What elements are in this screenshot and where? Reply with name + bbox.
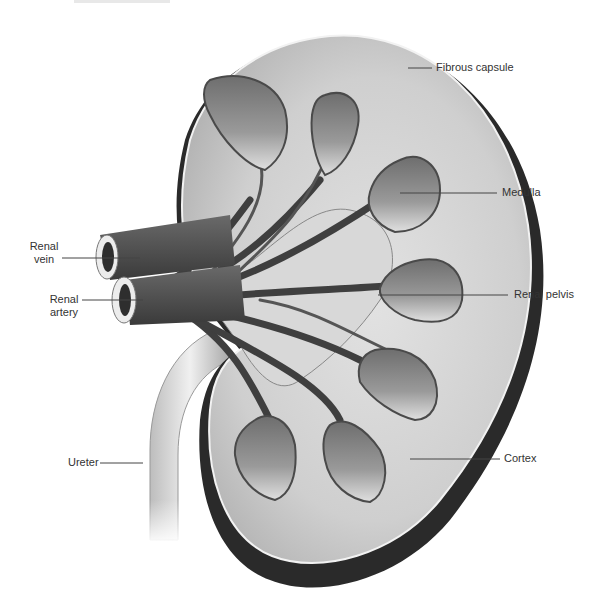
- label-cortex: Cortex: [504, 452, 536, 465]
- label-renal-pelvis: Renal pelvis: [514, 288, 574, 301]
- kidney-illustration: [0, 0, 605, 610]
- label-renal-artery-line1: Renal: [46, 293, 82, 306]
- label-renal-vein-line2: vein: [27, 253, 61, 266]
- label-fibrous-capsule: Fibrous capsule: [436, 61, 514, 74]
- label-ureter: Ureter: [68, 456, 99, 469]
- label-renal-artery-line2: artery: [46, 306, 82, 319]
- label-renal-vein: Renal vein: [27, 240, 61, 266]
- label-medulla: Medulla: [502, 186, 541, 199]
- label-renal-artery: Renal artery: [46, 293, 82, 319]
- label-renal-vein-line1: Renal: [27, 240, 61, 253]
